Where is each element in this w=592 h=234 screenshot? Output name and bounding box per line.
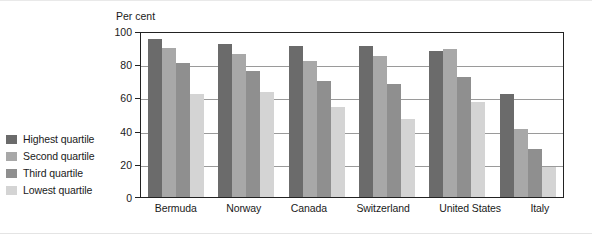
y-axis-tick-label: 80 [120,60,132,70]
legend-label: Second quartile [23,151,94,162]
x-axis-tick-label: Bermuda [155,202,197,214]
x-axis-tick-label: Norway [226,202,261,214]
bar[interactable] [401,119,415,197]
legend-label: Highest quartile [23,134,94,145]
bar[interactable] [303,61,317,197]
legend-item[interactable]: Third quartile [6,165,110,182]
x-axis-tick-label: Switzerland [356,202,409,214]
bar-group [148,33,204,197]
x-axis: BermudaNorwayCanadaSwitzerlandUnited Sta… [140,202,564,214]
y-axis-tick-label: 20 [120,160,132,170]
page-edge-top [0,0,592,1]
legend-swatch-icon [6,186,17,195]
bar-series-container [141,33,563,197]
bar[interactable] [232,54,246,197]
legend-item[interactable]: Lowest quartile [6,182,110,199]
legend-swatch-icon [6,152,17,161]
y-axis-tick-label: 100 [114,27,132,37]
y-axis-tick-label: 0 [126,193,132,203]
bar[interactable] [443,49,457,197]
bar[interactable] [528,149,542,197]
y-axis-tick-label: 40 [120,127,132,137]
bar[interactable] [359,46,373,197]
bar[interactable] [429,51,443,197]
legend-swatch-icon [6,135,17,144]
bar[interactable] [190,94,204,197]
x-axis-tick-label: United States [439,202,501,214]
plot-area [140,32,564,198]
y-axis-title: Per cent [116,10,155,22]
legend-label: Lowest quartile [23,185,92,196]
bar[interactable] [457,77,471,197]
bar[interactable] [218,44,232,197]
bar[interactable] [246,71,260,197]
bar-group [500,33,556,197]
chart-figure: Highest quartileSecond quartileThird qua… [0,0,592,234]
bar[interactable] [500,94,514,197]
legend-swatch-icon [6,169,17,178]
bar-group [359,33,415,197]
plot-wrapper [140,32,564,198]
y-axis: 020406080100 [108,32,140,198]
bar[interactable] [148,39,162,197]
legend-label: Third quartile [23,168,83,179]
bar[interactable] [514,129,528,197]
legend-item[interactable]: Highest quartile [6,131,110,148]
legend-item[interactable]: Second quartile [6,148,110,165]
y-axis-tick-label: 60 [120,93,132,103]
bar[interactable] [387,84,401,197]
bar-group [289,33,345,197]
bar[interactable] [331,107,345,197]
page-edge-bottom [0,233,592,234]
bar[interactable] [162,48,176,197]
bar[interactable] [176,63,190,197]
x-axis-tick-label: Italy [530,202,549,214]
bar-group [429,33,485,197]
bar[interactable] [471,102,485,197]
x-axis-tick-label: Canada [291,202,327,214]
bar[interactable] [542,167,556,197]
chart-legend: Highest quartileSecond quartileThird qua… [6,131,110,199]
bar-group [218,33,274,197]
bar[interactable] [260,92,274,197]
bar[interactable] [317,81,331,197]
bar[interactable] [289,46,303,197]
bar[interactable] [373,56,387,197]
